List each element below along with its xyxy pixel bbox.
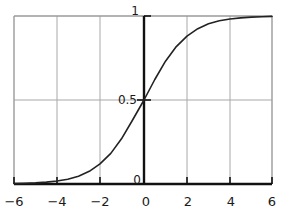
xtick-label-6: 6 — [268, 194, 276, 209]
xtick-label-2: 2 — [184, 194, 192, 209]
sigmoid-figure: 1 0.5 0 −6 −4 −2 0 2 4 6 — [0, 0, 286, 215]
plot-canvas: 1 0.5 0 −6 −4 −2 0 2 4 6 — [0, 0, 286, 215]
xtick-label--2: −2 — [90, 194, 109, 209]
ytick-label-0point5: 0.5 — [118, 93, 137, 107]
xtick-label--4: −4 — [47, 194, 66, 209]
ytick-label-1: 1 — [131, 4, 139, 18]
xtick-label-4: 4 — [227, 194, 235, 209]
xtick-label--6: −6 — [4, 194, 23, 209]
ytick-label-0: 0 — [133, 173, 141, 187]
xtick-label-0: 0 — [142, 194, 150, 209]
